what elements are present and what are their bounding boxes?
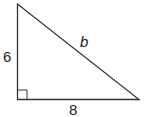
label-vertical-leg: 6 [3,48,11,65]
triangle-diagram: 6 b 8 [0,0,148,117]
label-horizontal-leg: 8 [69,101,77,117]
right-angle-marker [18,90,28,100]
right-triangle [18,4,140,100]
label-hypotenuse: b [80,33,88,50]
